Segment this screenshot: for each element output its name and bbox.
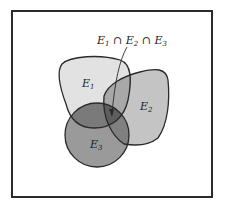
intersection-label: E1 ∩ E2 ∩ E3: [96, 34, 167, 48]
venn-diagram: E1 ∩ E2 ∩ E3 E1 E2 E3: [0, 0, 225, 203]
